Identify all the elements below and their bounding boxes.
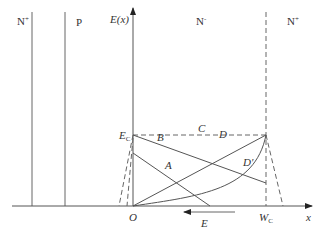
origin-label: O: [129, 212, 137, 223]
electric-field-diagram: N+ P N- N+ E(x) x O EC WC A B C D D' E: [0, 0, 322, 234]
line-d: [133, 135, 266, 206]
region-name: N: [196, 15, 204, 27]
ec-sub: C: [126, 135, 131, 143]
label-c: C: [198, 123, 205, 134]
region-name: P: [76, 16, 82, 28]
region-label-p: P: [76, 17, 82, 28]
diagram-canvas: [0, 0, 322, 234]
wc-sub: C: [268, 217, 273, 225]
left-dashed-slope-inner: [127, 138, 133, 206]
label-b: B: [157, 132, 164, 143]
right-dashed-slope: [266, 135, 283, 206]
label-a: A: [165, 160, 172, 171]
region-name: N: [287, 15, 295, 27]
region-doping: +: [25, 15, 29, 23]
region-doping: +: [295, 15, 299, 23]
label-d-prime: D': [243, 157, 253, 168]
ec-main: E: [119, 129, 126, 141]
region-name: N: [17, 15, 25, 27]
left-dashed-slope-outer: [119, 135, 133, 206]
ec-label: EC: [119, 130, 130, 143]
region-label-n-plus-left: N+: [17, 16, 29, 27]
region-label-n-minus: N-: [196, 16, 206, 27]
field-arrow-label: E: [201, 218, 208, 229]
label-d: D: [219, 129, 227, 140]
region-doping: -: [204, 15, 206, 23]
wc-label: WC: [259, 212, 273, 225]
wc-main: W: [259, 211, 268, 223]
region-label-n-plus-right: N+: [287, 16, 299, 27]
y-axis-label: E(x): [110, 14, 129, 25]
x-axis-label: x: [306, 212, 311, 223]
